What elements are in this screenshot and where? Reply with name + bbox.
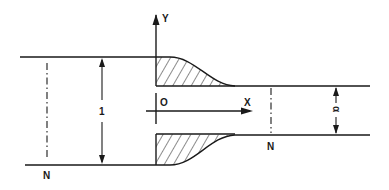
inlet-width-dimension: 1 xyxy=(99,58,105,164)
origin-label: O xyxy=(160,97,168,108)
dimension-arrow-down-icon xyxy=(99,155,105,164)
dimension-arrow-down-icon xyxy=(333,125,339,134)
outlet-width-dimension: α xyxy=(331,87,342,134)
outlet-width-label: α xyxy=(331,106,342,113)
lower-wall xyxy=(25,134,370,165)
y-axis-arrow-icon xyxy=(153,14,160,25)
section-right-label: N xyxy=(267,141,274,152)
upper-wall xyxy=(20,57,370,86)
section-left-label: N xyxy=(43,170,50,181)
dimension-arrow-up-icon xyxy=(333,87,339,96)
x-axis: X O xyxy=(146,97,253,115)
y-axis-label: Y xyxy=(162,13,169,24)
nozzle-diagram: Y X O N N 1 α xyxy=(0,0,389,190)
upper-hatched-region xyxy=(156,57,235,86)
x-axis-arrow-icon xyxy=(241,108,253,115)
inlet-width-label: 1 xyxy=(99,106,105,117)
section-left: N xyxy=(43,63,50,181)
lower-hatched-region xyxy=(156,134,235,165)
x-axis-label: X xyxy=(244,97,251,108)
section-right: N xyxy=(267,88,274,152)
dimension-arrow-up-icon xyxy=(99,58,105,67)
